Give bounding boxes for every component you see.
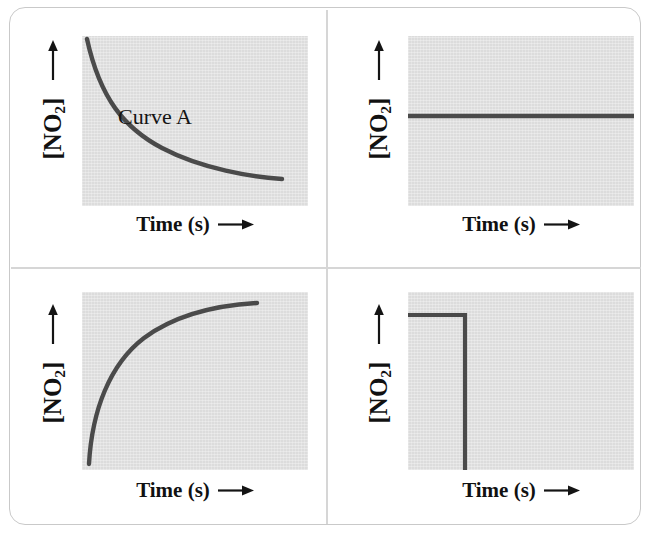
curve-c-plot [82,292,308,470]
y-axis-label-c: [NO2] [41,362,66,424]
curve-a-plot [82,36,308,206]
x-axis-a: Time (s) [82,214,308,235]
x-axis-c: Time (s) [82,480,308,501]
right-arrow-icon [218,484,254,497]
y-axis-label-a: [NO2] [41,98,66,160]
y-axis-d: [NO2] [356,304,402,470]
x-axis-label-a: Time (s) [136,214,210,235]
panel-curve-d: [NO2] Time (s) Curve D [326,268,652,536]
plot-area-a [82,36,308,206]
y-axis-b: [NO2] [356,40,402,202]
plot-area-c [82,292,308,470]
x-axis-label-c: Time (s) [136,480,210,501]
x-axis-d: Time (s) [408,480,634,501]
up-arrow-icon [372,304,386,344]
y-axis-label-d: [NO2] [367,362,392,424]
x-axis-label-b: Time (s) [462,214,536,235]
curve-b-plot [408,36,634,206]
panel-curve-b: [NO2] Time (s) Curve B [326,0,652,268]
x-axis-b: Time (s) [408,214,634,235]
y-axis-a: [NO2] [30,40,76,202]
curve-d-plot [408,292,634,470]
right-arrow-icon [544,484,580,497]
right-arrow-icon [218,218,254,231]
four-curve-figure: [NO2] Time (s) Curve A [NO2] [0,0,652,536]
plot-area-b [408,36,634,206]
right-arrow-icon [544,218,580,231]
curve-label-a: Curve A [118,106,192,128]
panel-curve-c: [NO2] Time (s) Curve C [0,268,326,536]
x-axis-label-d: Time (s) [462,480,536,501]
plot-area-d [408,292,634,470]
panel-curve-a: [NO2] Time (s) Curve A [0,0,326,268]
y-axis-c: [NO2] [30,304,76,470]
up-arrow-icon [372,40,386,80]
y-axis-label-b: [NO2] [367,98,392,160]
up-arrow-icon [46,304,60,344]
up-arrow-icon [46,40,60,80]
